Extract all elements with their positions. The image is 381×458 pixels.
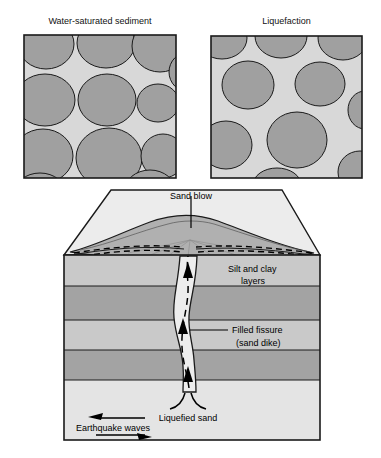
sediment-grains-left [13, 18, 209, 215]
grain [18, 19, 74, 69]
label-sand-blow: Sand blow [170, 191, 213, 201]
panel-liquefaction [197, 14, 381, 202]
panel-water-saturated-sediment [13, 18, 209, 215]
label-filled-fissure-line2: (sand dike) [236, 338, 281, 348]
label-liquefied-sand: Liquefied sand [159, 413, 218, 423]
grain [76, 128, 142, 188]
grain [318, 16, 368, 60]
grain [267, 112, 327, 168]
grain [338, 151, 381, 193]
grain [200, 121, 252, 169]
label-filled-fissure-line1: Filled fissure [232, 325, 283, 335]
grain [197, 17, 247, 59]
grain [222, 61, 274, 109]
grain [295, 62, 345, 106]
grain [132, 20, 188, 72]
grain [77, 18, 135, 68]
label-silt-and-clay-line2: layers [241, 276, 266, 286]
grain [348, 91, 381, 129]
label-silt-and-clay-line1: Silt and clay [228, 264, 277, 274]
grain [137, 84, 179, 122]
block-diagram: Sand blow Silt and clay layers Filled fi… [64, 190, 320, 440]
grain [169, 52, 209, 92]
liquefaction-figure: Water-saturated sediment Liquefaction [0, 0, 381, 458]
grain [78, 74, 136, 126]
diagram-canvas: Sand blow Silt and clay layers Filled fi… [0, 0, 381, 458]
label-earthquake-waves: Earthquake waves [76, 423, 151, 433]
grain [14, 173, 66, 215]
